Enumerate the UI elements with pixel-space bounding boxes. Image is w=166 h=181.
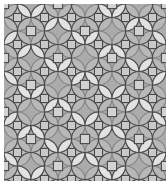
quarter-petal	[53, 53, 62, 62]
pattern-canvas	[4, 4, 166, 181]
quarter-petal	[107, 53, 116, 62]
node-square	[40, 13, 48, 21]
node-square	[121, 13, 129, 21]
node-square	[13, 40, 21, 48]
pattern-image-root: Geometric circle-lattice tiling pattern …	[0, 0, 166, 181]
node-square	[13, 13, 21, 21]
quarter-petal	[161, 107, 166, 116]
node-square	[148, 175, 156, 181]
quarter-petal	[26, 26, 35, 35]
node-square	[40, 40, 48, 48]
quarter-petal	[53, 161, 62, 170]
node-square	[94, 67, 102, 75]
node-square	[94, 40, 102, 48]
node-square	[121, 40, 129, 48]
node-square	[40, 148, 48, 156]
node-square	[94, 94, 102, 102]
quarter-petal	[161, 4, 166, 9]
quarter-petal	[26, 80, 35, 89]
quarter-petal	[26, 134, 35, 143]
node-square	[148, 13, 156, 21]
node-square	[148, 121, 156, 129]
node-square	[121, 175, 129, 181]
quarter-petal	[4, 53, 9, 62]
node-square	[40, 67, 48, 75]
node-square	[94, 148, 102, 156]
node-square	[121, 148, 129, 156]
quarter-petal	[80, 80, 89, 89]
quarter-petal	[161, 53, 166, 62]
node-square	[67, 40, 75, 48]
node-square	[13, 94, 21, 102]
node-square	[121, 121, 129, 129]
quarter-petal	[161, 161, 166, 170]
node-square	[40, 121, 48, 129]
quarter-petal	[134, 26, 143, 35]
node-square	[121, 94, 129, 102]
quarter-petal	[107, 107, 116, 116]
node-square	[67, 94, 75, 102]
node-square	[67, 175, 75, 181]
node-square	[13, 67, 21, 75]
node-square	[94, 175, 102, 181]
node-square	[40, 94, 48, 102]
node-square	[148, 40, 156, 48]
quarter-petal	[134, 134, 143, 143]
pattern-svg	[4, 4, 166, 181]
quarter-petal	[53, 4, 62, 9]
node-square	[40, 175, 48, 181]
tiling-group	[4, 4, 166, 181]
quarter-petal	[107, 161, 116, 170]
node-square	[148, 67, 156, 75]
quarter-petal	[80, 134, 89, 143]
quarter-petal	[4, 107, 9, 116]
node-square	[13, 121, 21, 129]
quarter-petal	[4, 4, 9, 9]
node-square	[67, 148, 75, 156]
quarter-petal	[134, 80, 143, 89]
node-square	[148, 148, 156, 156]
node-square	[67, 121, 75, 129]
node-square	[94, 121, 102, 129]
quarter-petal	[107, 4, 116, 9]
quarter-petal	[53, 107, 62, 116]
quarter-petal	[80, 26, 89, 35]
node-square	[148, 94, 156, 102]
node-square	[94, 13, 102, 21]
node-square	[121, 67, 129, 75]
quarter-petal	[4, 161, 9, 170]
node-square	[67, 13, 75, 21]
node-square	[13, 148, 21, 156]
node-square	[13, 175, 21, 181]
node-square	[67, 67, 75, 75]
